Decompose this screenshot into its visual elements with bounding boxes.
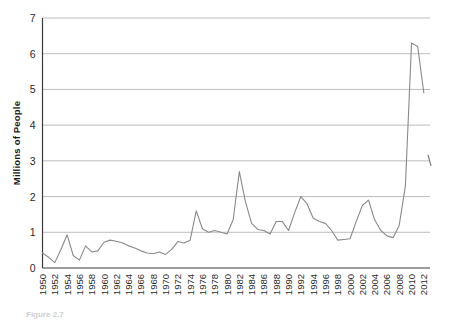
- x-tick-label: 1980: [222, 274, 233, 295]
- x-tick-label: 1996: [320, 274, 331, 295]
- x-tick-label: 2010: [406, 274, 417, 295]
- y-tick-label: 6: [30, 48, 36, 60]
- x-tick-label: 1950: [37, 274, 48, 295]
- figure-container: 01234567 Millions of People 195019521954…: [0, 0, 449, 321]
- x-axis-ticks: 1950195219541956195819601962196419661968…: [37, 274, 429, 295]
- x-tick-label: 1992: [295, 274, 306, 295]
- x-tick-label: 2006: [381, 274, 392, 295]
- x-tick-label: 1972: [172, 274, 183, 295]
- x-tick-label: 1960: [99, 274, 110, 295]
- x-tick-label: 1970: [160, 274, 171, 295]
- y-tick-label: 1: [30, 226, 36, 238]
- x-tick-label: 1954: [62, 274, 73, 295]
- x-tick-label: 2012: [418, 274, 429, 295]
- x-tick-label: 1956: [74, 274, 85, 295]
- y-tick-label: 0: [30, 262, 36, 274]
- line-chart: 01234567 Millions of People 195019521954…: [0, 0, 449, 321]
- y-axis-label: Millions of People: [11, 101, 22, 185]
- figure-caption: Figure 2.7: [26, 310, 64, 319]
- x-tick-label: 1984: [246, 274, 257, 295]
- x-tick-label: 1990: [283, 274, 294, 295]
- x-tick-label: 1968: [148, 274, 159, 295]
- x-tick-label: 2004: [369, 274, 380, 295]
- x-tick-label: 1978: [209, 274, 220, 295]
- x-tick-label: 1986: [258, 274, 269, 295]
- x-tick-label: 1974: [185, 274, 196, 295]
- x-tick-label: 2008: [394, 274, 405, 295]
- y-tick-label: 4: [30, 119, 36, 131]
- x-tick-label: 2000: [345, 274, 356, 295]
- x-tick-label: 1982: [234, 274, 245, 295]
- x-tick-label: 1976: [197, 274, 208, 295]
- y-tick-label: 7: [30, 12, 36, 24]
- x-tick-label: 1994: [308, 274, 319, 295]
- x-tick-label: 1962: [111, 274, 122, 295]
- x-tick-label: 1998: [332, 274, 343, 295]
- y-tick-label: 3: [30, 155, 36, 167]
- x-tick-label: 1952: [49, 274, 60, 295]
- x-tick-label: 1964: [123, 274, 134, 295]
- x-tick-label: 2002: [357, 274, 368, 295]
- x-tick-label: 1958: [86, 274, 97, 295]
- x-tick-label: 1988: [271, 274, 282, 295]
- x-tick-label: 1966: [135, 274, 146, 295]
- y-tick-label: 2: [30, 191, 36, 203]
- y-tick-label: 5: [30, 83, 36, 95]
